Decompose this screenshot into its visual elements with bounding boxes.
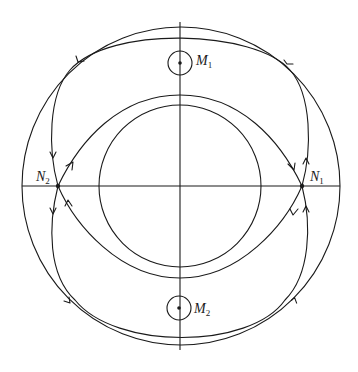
n2-point [56, 184, 60, 188]
phase-portrait-diagram: M1 M2 N1 N2 [0, 0, 358, 372]
m2-point [177, 306, 181, 310]
arrow-icon [65, 200, 72, 206]
arrow-icon [290, 209, 298, 215]
arrow-icon [50, 152, 56, 158]
m1-point [178, 61, 182, 65]
arrow-icon [303, 158, 309, 164]
label-m1: M1 [196, 54, 212, 70]
diagram-canvas [0, 0, 358, 372]
arrow-icon [284, 60, 293, 64]
arrow-icon [64, 297, 70, 303]
label-n1: N1 [310, 170, 324, 186]
n1-point [300, 184, 304, 188]
arrow-icon [291, 297, 297, 304]
label-m2: M2 [194, 302, 210, 318]
label-n2: N2 [36, 170, 50, 186]
